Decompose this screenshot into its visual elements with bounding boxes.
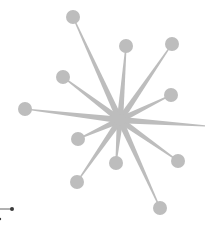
leaf-node-n7[interactable] (71, 132, 85, 146)
leaf-node-n1[interactable] (66, 10, 80, 24)
leaf-node-n8[interactable] (109, 156, 123, 170)
leaf-node-n5[interactable] (164, 88, 178, 102)
network-diagram (0, 0, 205, 243)
leaf-node-n11[interactable] (153, 201, 167, 215)
edge-e-right (120, 117, 205, 127)
fragment-node-1 (0, 218, 1, 220)
node-layer (18, 10, 185, 215)
leaf-node-n6[interactable] (18, 102, 32, 116)
hub-node[interactable] (114, 114, 126, 126)
star-graph-canvas (0, 0, 205, 243)
partial-graph-fragment (0, 207, 14, 220)
leaf-node-n10[interactable] (70, 175, 84, 189)
leaf-node-n3[interactable] (165, 37, 179, 51)
leaf-node-n2[interactable] (119, 39, 133, 53)
fragment-node-0 (10, 207, 14, 211)
leaf-node-n4[interactable] (56, 70, 70, 84)
leaf-node-n9[interactable] (171, 154, 185, 168)
